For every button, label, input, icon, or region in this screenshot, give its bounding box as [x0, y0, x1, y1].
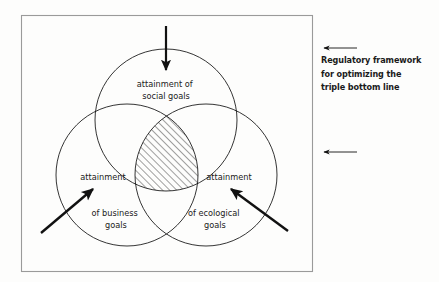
label-business-attainment: attainment — [80, 172, 126, 182]
caption-line-1: Regulatory framework — [321, 54, 433, 68]
label-ecological-attainment: attainment — [206, 172, 252, 182]
caption-line-2: for optimizing the — [321, 68, 433, 82]
caption-line-3: triple bottom line — [321, 81, 433, 95]
regulatory-framework-caption: Regulatory framework for optimizing the … — [321, 54, 433, 95]
label-ecological-goals: of ecological goals — [188, 208, 242, 230]
label-social-goals: attainment of social goals — [137, 79, 195, 101]
venn-diagram-figure: attainment of social goals attainment of… — [0, 0, 439, 282]
arrow-lower-left-regulatory — [41, 189, 93, 233]
label-business-goals: of business goals — [92, 208, 141, 230]
diagram-canvas: attainment of social goals attainment of… — [0, 0, 439, 282]
